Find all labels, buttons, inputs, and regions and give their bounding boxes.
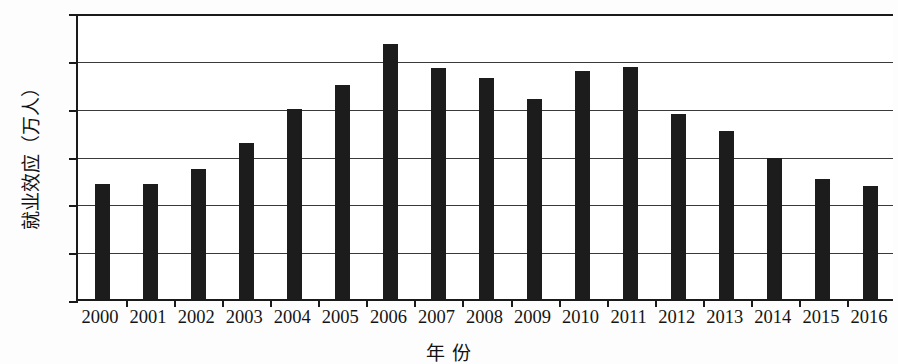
bar-2001 <box>143 184 158 299</box>
x-tick-label-2016: 2016 <box>841 308 897 327</box>
bar-2008 <box>479 78 494 299</box>
bar-2010 <box>575 71 590 299</box>
bar-2002 <box>191 169 206 299</box>
x-tick-mark <box>366 299 368 307</box>
x-tick-mark <box>751 299 753 307</box>
bar-2009 <box>527 99 542 299</box>
bar-2011 <box>623 67 638 299</box>
bar-2015 <box>815 179 830 299</box>
x-tick-mark <box>655 299 657 307</box>
bar-2004 <box>287 109 302 299</box>
x-tick-mark <box>607 299 609 307</box>
x-tick-mark <box>414 299 416 307</box>
bar-2013 <box>719 131 734 299</box>
x-tick-mark <box>462 299 464 307</box>
x-axis-title: 年 份 <box>0 338 898 364</box>
y-tick-mark-300 <box>69 14 78 16</box>
x-tick-mark <box>222 299 224 307</box>
bar-chart: 就业效应（万人） 300250200150100500 200020012002… <box>0 0 898 364</box>
bar-2006 <box>383 44 398 299</box>
y-tick-mark-50 <box>69 253 78 255</box>
bar-2012 <box>671 114 686 299</box>
plot-inner <box>78 14 893 299</box>
y-tick-mark-100 <box>69 205 78 207</box>
bar-2016 <box>863 186 878 299</box>
x-tick-mark <box>318 299 320 307</box>
plot-area <box>76 14 893 301</box>
bar-2014 <box>767 158 782 299</box>
x-tick-mark <box>703 299 705 307</box>
bar-2007 <box>431 68 446 299</box>
y-tick-mark-200 <box>69 110 78 112</box>
y-tick-mark-0 <box>69 301 78 303</box>
x-tick-mark <box>126 299 128 307</box>
x-tick-mark <box>174 299 176 307</box>
bar-2000 <box>95 184 110 299</box>
y-axis-title: 就业效应（万人） <box>16 39 43 269</box>
x-tick-mark <box>270 299 272 307</box>
gridline-300 <box>78 14 893 16</box>
bar-2005 <box>335 85 350 299</box>
bar-2003 <box>239 143 254 299</box>
x-tick-mark <box>559 299 561 307</box>
gridline-250 <box>78 62 893 63</box>
y-tick-mark-250 <box>69 62 78 64</box>
x-tick-mark <box>511 299 513 307</box>
x-tick-mark <box>847 299 849 307</box>
y-tick-mark-150 <box>69 158 78 160</box>
x-tick-mark <box>799 299 801 307</box>
